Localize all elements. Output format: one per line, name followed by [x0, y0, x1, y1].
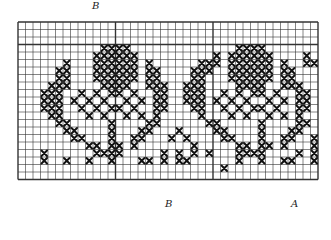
- cross-stitch-icon: [297, 151, 303, 157]
- cross-stitch-icon: [117, 46, 123, 52]
- cross-stitch-icon: [94, 76, 100, 82]
- cross-stitch-icon: [109, 143, 115, 149]
- cross-stitch-icon: [64, 76, 70, 82]
- cross-stitch-icon: [117, 76, 123, 82]
- cross-stitch-icon: [237, 91, 243, 97]
- cross-stitch-icon: [312, 143, 318, 149]
- cross-stitch-icon: [57, 98, 63, 104]
- cross-stitch-icon: [57, 121, 63, 127]
- cross-stitch-icon: [147, 76, 153, 82]
- cross-stitch-icon: [282, 143, 288, 149]
- cross-stitch-icon: [49, 91, 55, 97]
- cross-stitch-icon: [237, 83, 243, 89]
- chart-label-bottom-b: B: [165, 198, 172, 209]
- cross-stitch-icon: [244, 68, 250, 74]
- cross-stitch-icon: [102, 76, 108, 82]
- cross-stitch-icon: [177, 151, 183, 157]
- cross-stitch-icon: [237, 151, 243, 157]
- cross-stitch-icon: [42, 151, 48, 157]
- cross-stitch-icon: [109, 46, 115, 52]
- cross-stitch-icon: [124, 46, 130, 52]
- cross-stitch-icon: [162, 91, 168, 97]
- cross-stitch-icon: [184, 98, 190, 104]
- cross-stitch-icon: [192, 151, 198, 157]
- cross-stitch-icon: [297, 98, 303, 104]
- cross-stitch-icon: [244, 61, 250, 67]
- cross-stitch-icon: [259, 158, 265, 164]
- cross-stitch-icon: [207, 121, 213, 127]
- cross-stitch-icon: [237, 143, 243, 149]
- cross-stitch-icon: [139, 113, 145, 119]
- cross-stitch-icon: [244, 46, 250, 52]
- cross-stitch-icon: [229, 76, 235, 82]
- cross-stitch-icon: [154, 76, 160, 82]
- cross-stitch-icon: [259, 46, 265, 52]
- cross-stitch-icon: [282, 158, 288, 164]
- cross-stitch-icon: [192, 91, 198, 97]
- cross-stitch-icon: [199, 61, 205, 67]
- cross-stitch-icon: [267, 68, 273, 74]
- cross-stitch-icon: [184, 158, 190, 164]
- cross-stitch-icon: [109, 91, 115, 97]
- cross-stitch-icon: [139, 136, 145, 142]
- cross-stitch-icon: [132, 68, 138, 74]
- cross-stitch-icon: [109, 106, 115, 112]
- cross-stitch-icon: [109, 158, 115, 164]
- cross-stitch-icon: [94, 106, 100, 112]
- cross-stitch-icon: [72, 136, 78, 142]
- cross-stitch-icon: [94, 68, 100, 74]
- cross-stitch-icon: [177, 128, 183, 134]
- cross-stitch-icon: [64, 83, 70, 89]
- cross-stitch-icon: [117, 53, 123, 59]
- cross-stitch-icon: [267, 53, 273, 59]
- cross-stitch-icon: [57, 68, 63, 74]
- cross-stitch-icon: [124, 98, 130, 104]
- cross-stitch-icon: [214, 121, 220, 127]
- cross-stitch-icon: [192, 68, 198, 74]
- cross-stitch-icon: [102, 151, 108, 157]
- cross-stitch-icon: [109, 68, 115, 74]
- cross-stitch-icon: [237, 106, 243, 112]
- cross-stitch-icon: [109, 121, 115, 127]
- cross-stitch-icon: [207, 151, 213, 157]
- cross-stitch-icon: [289, 68, 295, 74]
- cross-stitch-icon: [282, 61, 288, 67]
- cross-stitch-icon: [237, 76, 243, 82]
- cross-stitch-icon: [169, 136, 175, 142]
- cross-stitch-icon: [282, 113, 288, 119]
- cross-stitch-icon: [237, 61, 243, 67]
- cross-stitch-icon: [229, 61, 235, 67]
- cross-stitch-icon: [222, 166, 228, 172]
- cross-stitch-icon: [192, 98, 198, 104]
- cross-stitch-icon: [304, 98, 310, 104]
- cross-stitch-icon: [214, 128, 220, 134]
- cross-stitch-icon: [72, 98, 78, 104]
- cross-stitch-icon: [237, 158, 243, 164]
- cross-stitch-icon: [109, 76, 115, 82]
- cross-stitch-icon: [102, 113, 108, 119]
- cross-stitch-icon: [162, 83, 168, 89]
- cross-stitch-icon: [162, 106, 168, 112]
- cross-stitch-icon: [297, 91, 303, 97]
- cross-stitch-icon: [304, 106, 310, 112]
- cross-stitch-icon: [304, 91, 310, 97]
- cross-stitch-icon: [109, 53, 115, 59]
- cross-stitch-icon: [57, 106, 63, 112]
- cross-stitch-icon: [102, 53, 108, 59]
- cross-stitch-icon: [184, 91, 190, 97]
- cross-stitch-icon: [184, 136, 190, 142]
- cross-stitch-icon: [229, 68, 235, 74]
- cross-stitch-icon: [102, 61, 108, 67]
- cross-stitch-icon: [312, 158, 318, 164]
- cross-stitch-icon: [79, 106, 85, 112]
- cross-stitch-icon: [252, 68, 258, 74]
- cross-stitch-icon: [207, 68, 213, 74]
- cross-stitch-icon: [244, 151, 250, 157]
- cross-stitch-icon: [259, 68, 265, 74]
- cross-stitch-icon: [94, 61, 100, 67]
- cross-stitch-icon: [289, 128, 295, 134]
- cross-stitch-icon: [124, 61, 130, 67]
- cross-stitch-icon: [124, 53, 130, 59]
- cross-stitch-icon: [49, 113, 55, 119]
- cross-stitch-icon: [282, 83, 288, 89]
